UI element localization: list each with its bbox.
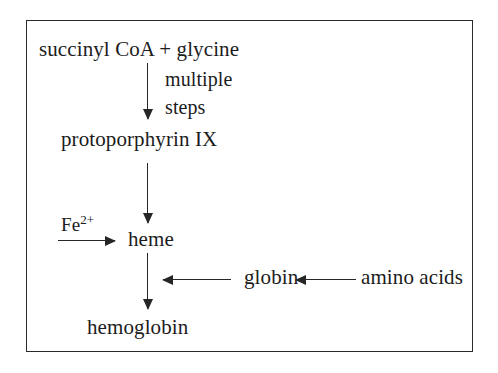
label-iron: Fe2+ (61, 213, 94, 234)
node-hemoglobin: hemoglobin (87, 317, 188, 338)
node-globin: globin (244, 267, 298, 288)
iron-symbol: Fe (61, 214, 80, 235)
label-steps: steps (165, 97, 206, 117)
arrow-succinyl-to-protoporphyrin (147, 63, 148, 119)
node-heme: heme (128, 229, 174, 250)
label-multiple: multiple (165, 69, 232, 89)
arrow-protoporphyrin-to-heme (147, 163, 148, 223)
diagram-canvas: succinyl CoA + glycine multiple steps pr… (0, 0, 498, 373)
diagram-frame: succinyl CoA + glycine multiple steps pr… (26, 20, 473, 352)
arrow-heme-to-hemoglobin (147, 253, 148, 309)
iron-charge: 2+ (80, 212, 94, 227)
node-amino-acids: amino acids (361, 267, 463, 288)
node-precursor: succinyl CoA + glycine (39, 39, 239, 60)
arrow-amino-acids-to-globin (296, 279, 356, 280)
node-protoporphyrin: protoporphyrin IX (61, 129, 217, 150)
arrow-globin-to-hemoglobin (163, 279, 231, 280)
arrow-iron-to-heme (58, 240, 115, 241)
